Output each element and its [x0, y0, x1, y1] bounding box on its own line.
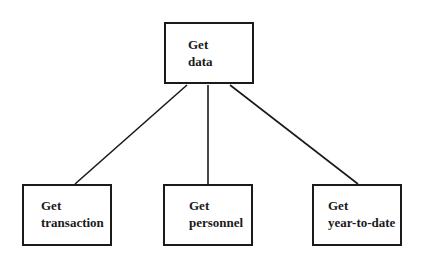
node-get-transaction: Get transaction: [22, 184, 112, 246]
node-get-data: Get data: [164, 22, 254, 84]
node-label-line2: transaction: [41, 214, 104, 231]
node-label-line2: year-to-date: [328, 214, 395, 231]
edge-data-to-transaction: [75, 85, 187, 184]
node-label-line1: Get: [328, 197, 395, 214]
node-get-personnel: Get personnel: [163, 184, 253, 246]
node-label-line1: Get: [188, 36, 213, 53]
node-label-line2: data: [188, 53, 213, 70]
node-label-line2: personnel: [189, 214, 243, 231]
node-label: Get transaction: [41, 197, 104, 231]
node-label: Get data: [188, 36, 213, 70]
node-label: Get personnel: [189, 197, 243, 231]
edge-data-to-year-to-date: [230, 85, 358, 184]
node-label: Get year-to-date: [328, 197, 395, 231]
node-label-line1: Get: [189, 197, 243, 214]
node-get-year-to-date: Get year-to-date: [312, 184, 402, 246]
node-label-line1: Get: [41, 197, 104, 214]
